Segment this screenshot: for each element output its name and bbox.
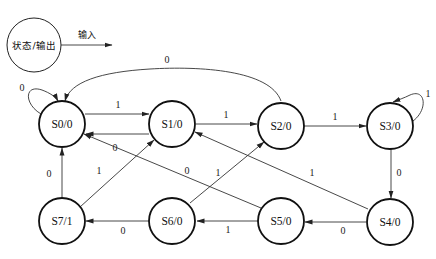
state-label: S4/0 xyxy=(379,216,400,228)
edge-label-s7-s0: 0 xyxy=(47,168,52,179)
edge-label-s0-s1: 1 xyxy=(116,99,121,110)
state-label: S3/0 xyxy=(379,120,400,132)
edge-label-s3-s4: 0 xyxy=(397,167,402,178)
legend-node: 状态/输出 xyxy=(7,18,61,72)
edge-label-s2-s0: 0 xyxy=(165,54,170,65)
legend-arrow-label: 输入 xyxy=(78,29,96,40)
edge-label-s7-s1: 1 xyxy=(97,165,102,176)
state-s0: S0/0 xyxy=(39,101,85,147)
state-s1: S1/0 xyxy=(149,101,195,147)
edge-label-s0-s0: 0 xyxy=(20,82,25,93)
state-s7: S7/1 xyxy=(39,198,85,244)
edge-label-s4-s1: 1 xyxy=(310,167,315,178)
state-s4: S4/0 xyxy=(367,199,413,245)
legend: 状态/输出 输入 xyxy=(7,18,112,72)
state-label: S6/0 xyxy=(161,215,182,227)
edge-s2-s0 xyxy=(65,68,281,101)
state-label: S5/0 xyxy=(270,215,291,227)
edge-label-s6-s7: 0 xyxy=(121,225,126,236)
edge-label-s6-s2: 1 xyxy=(216,167,221,178)
legend-node-label: 状态/输出 xyxy=(12,40,55,51)
state-s6: S6/0 xyxy=(149,198,195,244)
state-label: S2/0 xyxy=(270,120,291,132)
state-label: S1/0 xyxy=(161,118,182,130)
edge-label-s1-s2: 1 xyxy=(224,109,229,120)
state-label: S0/0 xyxy=(51,118,72,130)
edge-label-s5-s0: 0 xyxy=(185,165,190,176)
edge-label-s5-s6: 1 xyxy=(226,224,231,235)
state-label: S7/1 xyxy=(51,215,72,227)
state-diagram: 状态/输出 输入 0 1 0 1 0 1 1 0 0 1 1 0 0 1 0 xyxy=(0,0,436,259)
state-s5: S5/0 xyxy=(258,198,304,244)
edge-label-s2-s3: 1 xyxy=(333,111,338,122)
edge-label-s3-s3: 1 xyxy=(426,88,431,99)
state-s2: S2/0 xyxy=(258,103,304,149)
edge-label-s4-s5: 0 xyxy=(341,225,346,236)
state-s3: S3/0 xyxy=(367,103,413,149)
